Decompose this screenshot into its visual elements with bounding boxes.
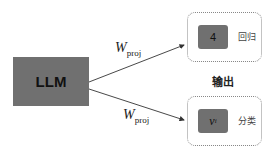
regression-value-box: 4 xyxy=(198,25,228,49)
classification-output-box: vi 分类 xyxy=(187,96,262,146)
classification-value-box: vi xyxy=(198,109,228,133)
llm-box: LLM xyxy=(13,57,89,106)
w-proj-label-top: Wproj xyxy=(115,40,141,58)
classification-label: 分类 xyxy=(238,114,256,127)
regression-output-box: 4 回归 xyxy=(187,12,262,62)
regression-label: 回归 xyxy=(238,30,256,43)
llm-label: LLM xyxy=(36,73,67,90)
output-title: 输出 xyxy=(212,73,234,89)
w-proj-label-bottom: Wproj xyxy=(123,107,149,125)
